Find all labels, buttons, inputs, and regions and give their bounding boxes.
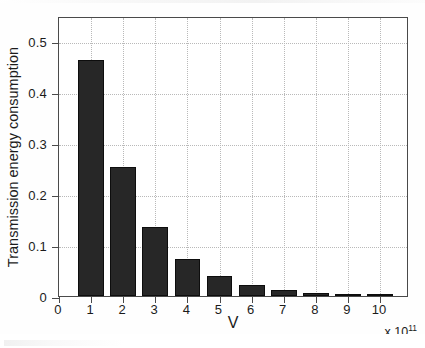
scan-artifact-top [0, 0, 425, 3]
x-axis-multiplier-exponent: 11 [408, 323, 417, 333]
y-tick-label: 0.3 [28, 137, 47, 152]
y-tick-mark [52, 298, 59, 299]
gridline-vertical [380, 18, 381, 296]
scan-artifact-bottom [0, 334, 425, 348]
gridline-vertical [284, 18, 285, 296]
gridline-vertical [187, 18, 188, 296]
gridline-horizontal [59, 94, 407, 95]
plot-area [58, 17, 408, 297]
y-tick-label: 0.4 [28, 86, 47, 101]
y-axis-title-text: Transmission energy consumption [5, 47, 21, 267]
scan-smudge [4, 340, 124, 346]
y-tick-label: 0.5 [28, 35, 47, 50]
x-axis-title: V [58, 314, 408, 332]
bar-5 [207, 276, 233, 296]
bar-6 [239, 285, 265, 296]
plot-inner [59, 18, 407, 296]
bar-1 [78, 60, 104, 296]
y-tick-mark [52, 196, 59, 197]
bar-4 [175, 259, 201, 296]
y-axis-title: Transmission energy consumption [2, 17, 24, 297]
bar-3 [142, 227, 168, 296]
y-tick-mark [52, 43, 59, 44]
y-tick-mark [52, 145, 59, 146]
gridline-vertical [252, 18, 253, 296]
gridline-horizontal [59, 145, 407, 146]
gridline-vertical [316, 18, 317, 296]
gridline-vertical [220, 18, 221, 296]
y-tick-label: 0 [40, 290, 47, 305]
y-tick-mark [52, 247, 59, 248]
y-tick-mark [52, 94, 59, 95]
bar-2 [110, 167, 136, 296]
gridline-vertical [348, 18, 349, 296]
y-tick-label: 0.1 [28, 239, 47, 254]
gridline-horizontal [59, 43, 407, 44]
y-tick-label: 0.2 [28, 188, 47, 203]
chart-figure: Transmission energy consumption 00.10.20… [0, 0, 425, 348]
